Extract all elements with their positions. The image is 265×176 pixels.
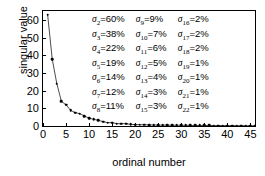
data-point bbox=[125, 122, 128, 125]
x-tick-label: 0 bbox=[40, 129, 46, 140]
data-point bbox=[175, 124, 178, 126]
data-point bbox=[240, 124, 243, 126]
y-tick-label: 50 bbox=[27, 32, 39, 43]
x-tick-label: 25 bbox=[152, 129, 164, 140]
data-point bbox=[231, 124, 234, 126]
y-tick-label: 0 bbox=[33, 121, 39, 132]
singular-value-figure: singular value 0102030405060 05101520253… bbox=[0, 0, 265, 176]
data-point bbox=[235, 124, 238, 126]
data-point bbox=[208, 124, 211, 126]
data-point bbox=[92, 118, 95, 121]
data-point bbox=[143, 123, 146, 126]
x-tick-label: 20 bbox=[129, 129, 141, 140]
data-point bbox=[244, 124, 247, 126]
y-tick-mark bbox=[43, 126, 46, 127]
data-point bbox=[74, 111, 77, 114]
x-tick-label: 45 bbox=[244, 129, 256, 140]
data-point bbox=[138, 123, 141, 126]
y-tick-label: 40 bbox=[27, 50, 39, 61]
data-point bbox=[226, 124, 229, 126]
x-tick-label: 30 bbox=[175, 129, 187, 140]
y-tick-label: 10 bbox=[27, 103, 39, 114]
data-point bbox=[189, 124, 192, 126]
data-point bbox=[111, 121, 114, 124]
data-point bbox=[102, 120, 105, 123]
data-point bbox=[185, 124, 188, 126]
x-tick-label: 5 bbox=[63, 129, 69, 140]
data-point bbox=[254, 124, 255, 126]
x-tick-label: 10 bbox=[83, 129, 95, 140]
x-tick-label: 40 bbox=[221, 129, 233, 140]
data-point bbox=[79, 112, 82, 115]
data-point bbox=[148, 124, 151, 126]
data-point bbox=[51, 58, 54, 61]
x-tick-label: 35 bbox=[198, 129, 210, 140]
data-line bbox=[43, 11, 255, 126]
data-point bbox=[180, 124, 183, 126]
x-axis-label: ordinal number bbox=[42, 156, 256, 168]
y-tick-label: 20 bbox=[27, 85, 39, 96]
data-point bbox=[88, 117, 91, 120]
data-point bbox=[212, 124, 215, 126]
data-point bbox=[134, 123, 137, 126]
data-point bbox=[221, 124, 224, 126]
data-point bbox=[129, 123, 132, 126]
data-point bbox=[106, 121, 109, 124]
data-point bbox=[97, 119, 100, 122]
data-point bbox=[83, 115, 86, 118]
data-point bbox=[56, 82, 59, 85]
y-tick-label: 60 bbox=[27, 14, 39, 25]
data-point bbox=[157, 124, 160, 126]
data-point bbox=[162, 124, 165, 126]
data-point bbox=[171, 124, 174, 126]
data-point bbox=[166, 124, 169, 126]
data-point bbox=[120, 122, 123, 125]
y-tick-label: 30 bbox=[27, 67, 39, 78]
data-point bbox=[194, 124, 197, 126]
data-point bbox=[198, 124, 201, 126]
data-point bbox=[203, 124, 206, 126]
data-point bbox=[65, 103, 68, 106]
data-point bbox=[60, 100, 63, 103]
data-point bbox=[69, 109, 72, 112]
data-point bbox=[152, 124, 155, 126]
data-point bbox=[249, 124, 252, 126]
data-point bbox=[115, 122, 118, 125]
data-series bbox=[43, 11, 255, 126]
data-point bbox=[217, 124, 220, 126]
data-point bbox=[46, 13, 49, 16]
plot-area: 0102030405060 051015202530354045 bbox=[42, 10, 256, 127]
x-tick-label: 15 bbox=[106, 129, 118, 140]
